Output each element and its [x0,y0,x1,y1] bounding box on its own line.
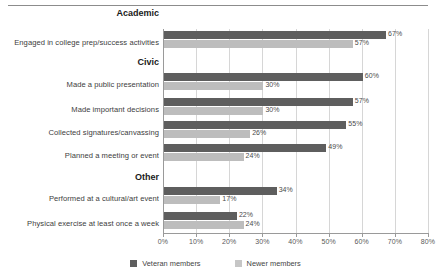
category-label: Performed at a cultural/art event [49,194,159,203]
x-gridline [428,29,429,233]
x-axis-tick-label: 0% [148,238,178,245]
legend-item[interactable]: Newer members [235,259,301,268]
bar-value-label: 49% [328,143,342,150]
legend-swatch-icon [130,260,137,267]
x-gridline [395,29,396,233]
bar-newer [164,107,263,115]
bar-veteran [164,144,326,152]
legend-label: Veteran members [142,259,200,268]
bar-veteran [164,121,346,129]
bar-newer [164,40,353,48]
bar-newer [164,130,250,138]
category-label: Engaged in college prep/success activiti… [14,38,159,47]
bar-veteran [164,212,237,220]
x-axis-tick-label: 40% [281,238,311,245]
bar-value-label: 22% [239,211,253,218]
bar-value-label: 67% [388,30,402,37]
x-axis-tick-label: 80% [413,238,440,245]
bar-value-label: 24% [246,220,260,227]
bar-value-label: 30% [265,81,279,88]
x-axis-tick-label: 10% [181,238,211,245]
x-axis-tick [362,234,363,237]
x-axis-tick [196,234,197,237]
bar-veteran [164,73,363,81]
bar-value-label: 55% [348,120,362,127]
bar-veteran [164,98,353,106]
bar-newer [164,221,244,229]
category-label: Collected signatures/canvassing [49,128,159,137]
bar-value-label: 24% [246,152,260,159]
x-axis-tick [262,234,263,237]
legend-swatch-icon [235,260,242,267]
x-axis-tick [229,234,230,237]
section-heading-civic: Civic [137,57,159,67]
category-label: Made important decisions [71,105,159,114]
bar-value-label: 57% [355,39,369,46]
bar-newer [164,196,220,204]
x-axis-tick [296,234,297,237]
top-divider-rule [8,5,428,6]
x-axis-tick [395,234,396,237]
bar-value-label: 30% [265,106,279,113]
x-axis-tick-label: 60% [347,238,377,245]
section-heading-other: Other [135,172,159,182]
bar-value-label: 17% [222,195,236,202]
legend-item[interactable]: Veteran members [130,259,200,268]
x-axis-tick-label: 30% [247,238,277,245]
bar-value-label: 57% [355,97,369,104]
category-label: Physical exercise at least once a week [27,219,159,228]
chart-legend: Veteran membersNewer members [0,259,431,268]
x-axis-tick [428,234,429,237]
bar-value-label: 26% [252,129,266,136]
x-axis-tick [329,234,330,237]
category-label: Planned a meeting or event [65,151,159,160]
x-gridline [362,29,363,233]
bar-newer [164,82,263,90]
bar-value-label: 34% [279,186,293,193]
x-gridline [296,29,297,233]
section-heading-academic: Academic [116,8,159,18]
category-label: Made a public presentation [67,80,159,89]
x-axis-tick-label: 50% [314,238,344,245]
x-axis-tick-label: 70% [380,238,410,245]
bar-veteran [164,187,277,195]
bar-value-label: 60% [365,72,379,79]
x-gridline [329,29,330,233]
bar-newer [164,153,244,161]
x-axis-tick [163,234,164,237]
x-axis-tick-label: 20% [214,238,244,245]
legend-label: Newer members [247,259,301,268]
bar-veteran [164,31,386,39]
